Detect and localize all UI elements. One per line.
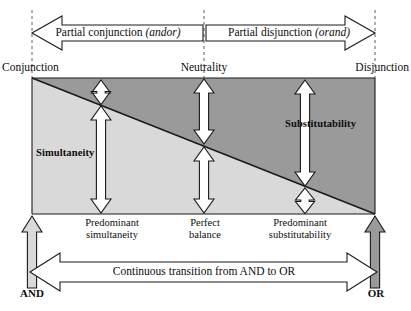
tick-line-1: Predominant (269, 217, 331, 229)
axis-label-disjunction: Disjunction (355, 61, 409, 73)
endpoint-label-and: AND (20, 288, 44, 300)
figure-root: .ol { stroke: #1a1a1a; stroke-width: 1.1… (0, 0, 411, 311)
endpoint-label-or: OR (368, 288, 385, 300)
axis-label-neutrality: Neutrality (181, 61, 228, 73)
tick-line-1: Predominant (85, 217, 139, 229)
tick-label-predominant-substitutability: Predominant substitutability (269, 217, 331, 242)
tick-line-1: Perfect (189, 217, 221, 229)
tick-line-2: substitutability (269, 229, 331, 241)
partial-conjunction-label: Partial conjunction (andor) (55, 26, 180, 38)
tick-label-predominant-simultaneity: Predominant simultaneity (85, 217, 139, 242)
tick-line-2: balance (189, 229, 221, 241)
region-label-substitutability: Substitutability (285, 118, 356, 129)
tick-label-perfect-balance: Perfect balance (189, 217, 221, 242)
caption-remnant (6, 300, 8, 308)
axis-label-conjunction: Conjunction (2, 61, 59, 73)
tick-line-2: simultaneity (85, 229, 139, 241)
continuous-transition-label: Continuous transition from AND to OR (113, 265, 295, 277)
region-label-simultaneity: Simultaneity (36, 147, 94, 158)
partial-disjunction-label: Partial disjunction (orand) (228, 26, 350, 38)
